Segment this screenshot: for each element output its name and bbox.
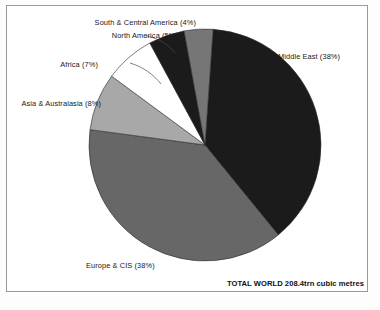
slice-label-europe-cis: Europe & CIS (38%)	[86, 261, 155, 270]
slice-label-middle-east: Middle East (38%)	[278, 52, 340, 61]
pie-slice-group	[89, 29, 321, 261]
slice-label-asia-australasia: Asia & Australasia (8%)	[21, 99, 101, 108]
slice-label-south-central-america: South & Central America (4%)	[95, 18, 196, 27]
slice-label-africa: Africa (7%)	[60, 60, 98, 69]
total-world-note: TOTAL WORLD 208.4trn cubic metres	[227, 279, 364, 288]
slice-label-north-america: North America (5%)	[112, 31, 178, 40]
pie-chart-plot	[0, 0, 380, 310]
pie-chart-figure: Middle East (38%) Europe & CIS (38%) Asi…	[0, 0, 380, 310]
